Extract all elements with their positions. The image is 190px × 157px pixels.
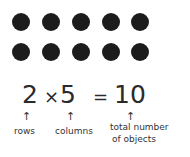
- times-sign: ×: [44, 86, 59, 107]
- dot: [42, 43, 60, 61]
- rows-arrow-icon: ↑: [22, 110, 31, 123]
- columns-arrow-icon: ↑: [66, 110, 75, 123]
- dot: [102, 13, 120, 31]
- columns-value: 5: [60, 80, 76, 109]
- rows-value: 2: [22, 80, 38, 109]
- dot: [102, 43, 120, 61]
- dot: [12, 43, 30, 61]
- total-label-line1: total number: [110, 122, 169, 133]
- dot: [72, 43, 90, 61]
- dot: [131, 43, 149, 61]
- dot: [42, 13, 60, 31]
- total-value: 10: [114, 80, 146, 109]
- dot: [72, 13, 90, 31]
- dot: [12, 13, 30, 31]
- rows-label: rows: [14, 126, 35, 137]
- dot: [131, 13, 149, 31]
- equals-sign: =: [93, 86, 108, 107]
- columns-label: columns: [55, 126, 93, 137]
- total-label-line2: of objects: [112, 134, 156, 145]
